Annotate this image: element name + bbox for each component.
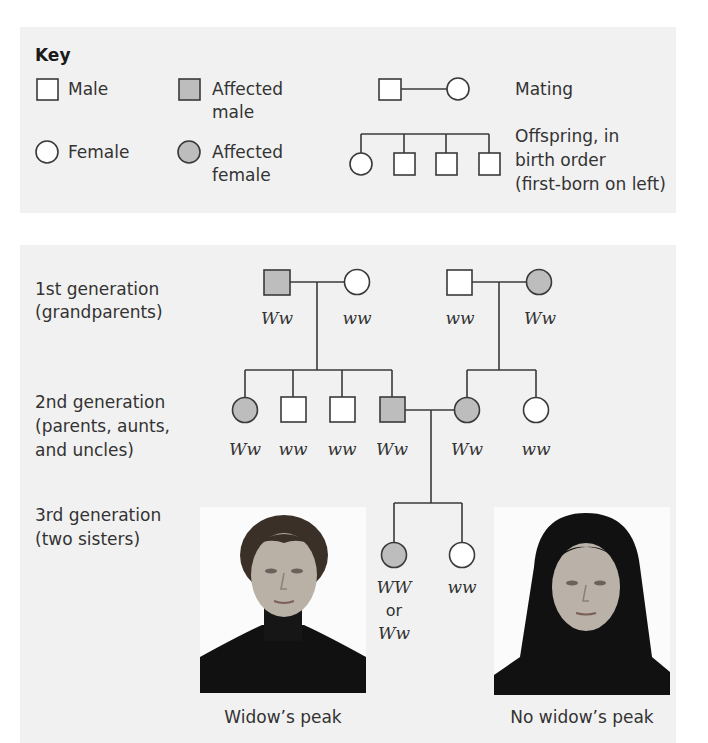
- gen2-genotype: Ww: [229, 439, 261, 459]
- gen3-label-1: 3rd generation: [35, 504, 161, 526]
- gen1-genotype: ww: [342, 308, 371, 328]
- gen2-genotype: Ww: [451, 439, 483, 459]
- gen2-male-icon: [330, 397, 355, 422]
- pedigree-chart: [0, 0, 708, 743]
- caption-widows-peak: Widow’s peak: [224, 706, 341, 728]
- gen1-genotype: Ww: [261, 308, 293, 328]
- gen1-female-icon: [345, 270, 370, 295]
- gen2-label-2: (parents, aunts,: [35, 415, 170, 437]
- gen2-affected-male-icon: [380, 397, 405, 422]
- gen2-label-3: and uncles): [35, 439, 134, 461]
- gen2-genotype: ww: [327, 439, 356, 459]
- gen3-genotype: ww: [447, 577, 476, 597]
- gen1-label-1: 1st generation: [35, 278, 159, 300]
- gen1-genotype: Ww: [524, 308, 556, 328]
- caption-no-widows-peak: No widow’s peak: [510, 706, 653, 728]
- gen1-affected-female-icon: [527, 270, 552, 295]
- gen2-affected-female-icon: [233, 398, 258, 423]
- gen3-genotype: WW: [377, 577, 412, 597]
- gen3-genotype-alt: Ww: [378, 623, 410, 643]
- gen2-affected-female-icon: [455, 398, 480, 423]
- gen2-label-1: 2nd generation: [35, 391, 165, 413]
- gen2-genotype: Ww: [376, 439, 408, 459]
- gen2-female-icon: [524, 398, 549, 423]
- gen1-genotype: ww: [445, 308, 474, 328]
- gen3-label-2: (two sisters): [35, 528, 140, 550]
- gen2-male-icon: [281, 397, 306, 422]
- gen3-affected-female-icon: [382, 543, 407, 568]
- gen1-male-icon: [447, 270, 472, 295]
- gen3-female-icon: [450, 543, 475, 568]
- gen2-genotype: ww: [521, 439, 550, 459]
- gen2-genotype: ww: [278, 439, 307, 459]
- gen1-label-2: (grandparents): [35, 301, 163, 323]
- gen3-genotype-or: or: [386, 601, 402, 621]
- gen1-affected-male-icon: [264, 270, 290, 295]
